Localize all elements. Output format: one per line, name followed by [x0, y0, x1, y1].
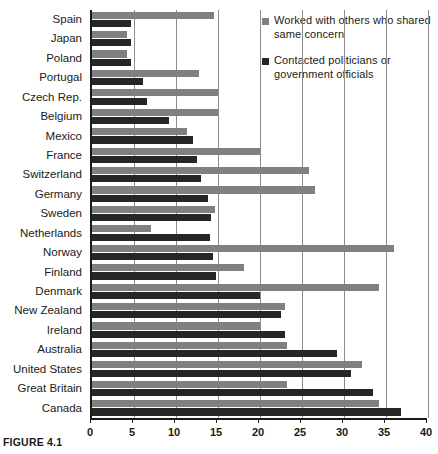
chart-row: Belgium	[92, 107, 426, 126]
bar-worked-with-others	[92, 50, 127, 57]
bar-worked-with-others	[92, 225, 151, 232]
category-label: Germany	[0, 185, 82, 204]
bar-contacted-politicians	[92, 311, 281, 318]
category-label: Finland	[0, 263, 82, 282]
bar-worked-with-others	[92, 400, 379, 407]
chart-row: Poland	[92, 49, 426, 68]
bar-contacted-politicians	[92, 156, 197, 163]
x-tick-label: 0	[77, 426, 103, 438]
x-tick-label: 30	[329, 426, 355, 438]
chart-row: Netherlands	[92, 224, 426, 243]
chart-row: Switzerland	[92, 165, 426, 184]
category-label: Japan	[0, 29, 82, 48]
chart-row: Great Britain	[92, 379, 426, 398]
category-label: Ireland	[0, 321, 82, 340]
category-label: Mexico	[0, 127, 82, 146]
bar-worked-with-others	[92, 128, 187, 135]
chart-row: Czech Rep.	[92, 88, 426, 107]
chart-row: Mexico	[92, 127, 426, 146]
x-tick	[300, 418, 301, 423]
bar-contacted-politicians	[92, 98, 147, 105]
bar-contacted-politicians	[92, 195, 208, 202]
gridline	[428, 10, 429, 418]
x-tick-label: 5	[119, 426, 145, 438]
bar-contacted-politicians	[92, 408, 401, 415]
chart-row: Australia	[92, 340, 426, 359]
bar-contacted-politicians	[92, 331, 285, 338]
bar-worked-with-others	[92, 89, 218, 96]
category-label: Belgium	[0, 107, 82, 126]
category-label: Switzerland	[0, 165, 82, 184]
x-tick-label: 10	[161, 426, 187, 438]
category-label: Czech Rep.	[0, 88, 82, 107]
chart-row: Japan	[92, 29, 426, 48]
x-tick	[216, 418, 217, 423]
chart-row: Ireland	[92, 321, 426, 340]
figure-caption: FIGURE 4.1	[3, 436, 62, 448]
category-label: Sweden	[0, 204, 82, 223]
bar-worked-with-others	[92, 322, 260, 329]
chart-row: Portugal	[92, 68, 426, 87]
bar-contacted-politicians	[92, 370, 351, 377]
chart-row: Denmark	[92, 282, 426, 301]
x-tick	[426, 418, 427, 423]
bar-contacted-politicians	[92, 117, 169, 124]
bar-contacted-politicians	[92, 389, 373, 396]
x-tick	[258, 418, 259, 423]
bar-contacted-politicians	[92, 175, 201, 182]
bar-contacted-politicians	[92, 350, 337, 357]
x-tick-label: 20	[245, 426, 271, 438]
chart-row: Finland	[92, 263, 426, 282]
bar-contacted-politicians	[92, 292, 260, 299]
chart-row: Norway	[92, 243, 426, 262]
bar-contacted-politicians	[92, 234, 210, 241]
x-tick-label: 25	[287, 426, 313, 438]
category-label: Great Britain	[0, 379, 82, 398]
x-tick	[384, 418, 385, 423]
category-label: Portugal	[0, 68, 82, 87]
x-tick-label: 40	[413, 426, 438, 438]
bar-worked-with-others	[92, 342, 287, 349]
x-tick	[132, 418, 133, 423]
bar-contacted-politicians	[92, 272, 216, 279]
bar-worked-with-others	[92, 264, 244, 271]
category-label: Australia	[0, 340, 82, 359]
bar-worked-with-others	[92, 109, 218, 116]
bar-worked-with-others	[92, 148, 260, 155]
bar-worked-with-others	[92, 284, 379, 291]
x-tick-label: 15	[203, 426, 229, 438]
bar-worked-with-others	[92, 303, 285, 310]
chart-row: Germany	[92, 185, 426, 204]
category-label: France	[0, 146, 82, 165]
x-tick-label: 35	[371, 426, 397, 438]
chart-row: United States	[92, 360, 426, 379]
plot-area: SpainJapanPolandPortugalCzech Rep.Belgiu…	[90, 10, 426, 418]
chart-row: Canada	[92, 399, 426, 418]
bar-worked-with-others	[92, 245, 394, 252]
x-tick	[174, 418, 175, 423]
chart-row: New Zealand	[92, 301, 426, 320]
bar-worked-with-others	[92, 361, 362, 368]
bar-worked-with-others	[92, 206, 215, 213]
category-label: Poland	[0, 49, 82, 68]
bar-contacted-politicians	[92, 253, 213, 260]
bar-contacted-politicians	[92, 136, 193, 143]
category-label: Canada	[0, 399, 82, 418]
bar-worked-with-others	[92, 381, 287, 388]
category-label: Denmark	[0, 282, 82, 301]
category-label: Norway	[0, 243, 82, 262]
chart-row: Spain	[92, 10, 426, 29]
category-label: New Zealand	[0, 301, 82, 320]
x-tick	[342, 418, 343, 423]
bar-contacted-politicians	[92, 78, 143, 85]
bar-worked-with-others	[92, 167, 309, 174]
chart-row: France	[92, 146, 426, 165]
bar-worked-with-others	[92, 31, 127, 38]
category-label: Spain	[0, 10, 82, 29]
bar-worked-with-others	[92, 186, 315, 193]
bar-worked-with-others	[92, 12, 214, 19]
bar-contacted-politicians	[92, 59, 131, 66]
bar-contacted-politicians	[92, 20, 131, 27]
bar-contacted-politicians	[92, 214, 211, 221]
category-label: Netherlands	[0, 224, 82, 243]
